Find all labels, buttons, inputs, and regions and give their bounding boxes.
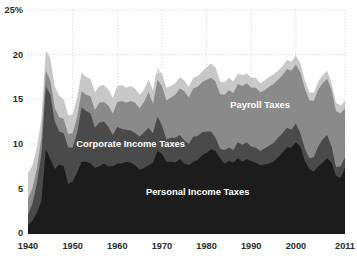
series-label-payroll-taxes: Payroll Taxes — [230, 99, 290, 110]
y-tick-label-4: 5 — [18, 184, 23, 194]
y-tick-label-2: 15 — [13, 94, 23, 104]
x-tick-label-4: 1980 — [196, 241, 216, 251]
chart-canvas: 25%20151050 1940195019601970198019902000… — [0, 0, 357, 270]
y-tick-label-1: 20 — [13, 50, 23, 60]
x-axis-tick-labels: 19401950196019701980199020002011 — [18, 241, 355, 251]
y-tick-label-3: 10 — [13, 139, 23, 149]
y-tick-label-5: 0 — [18, 228, 23, 238]
x-tick-label-3: 1970 — [152, 241, 172, 251]
x-tick-label-6: 2000 — [286, 241, 306, 251]
x-tick-label-7: 2011 — [335, 241, 355, 251]
x-tick-label-2: 1960 — [107, 241, 127, 251]
series-label-corporate-income-taxes: Corporate Income Taxes — [76, 138, 185, 149]
y-tick-label-0: 25% — [5, 5, 23, 15]
y-axis-tick-labels: 25%20151050 — [5, 5, 23, 238]
x-tick-label-5: 1990 — [241, 241, 261, 251]
series-label-other: Other — [145, 64, 170, 75]
x-tick-label-1: 1950 — [62, 241, 82, 251]
stacked-area-chart: 25%20151050 1940195019601970198019902000… — [0, 0, 357, 270]
x-tick-label-0: 1940 — [18, 241, 38, 251]
series-label-personal-income-taxes: Personal Income Taxes — [146, 186, 250, 197]
